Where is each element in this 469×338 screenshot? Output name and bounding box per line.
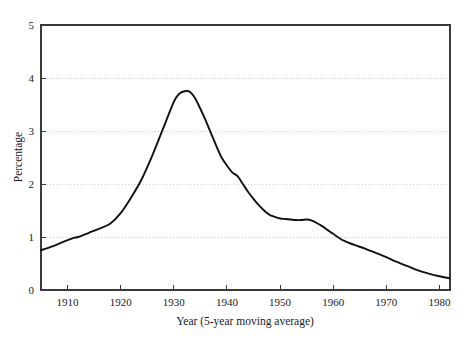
x-axis-title: Year (5-year moving average) bbox=[176, 315, 314, 328]
y-axis-tick-labels-group: 012345 bbox=[29, 19, 35, 296]
y-axis-tick-label: 0 bbox=[29, 284, 35, 296]
chart-figure: 012345 19101920193019401950196019701980 … bbox=[0, 0, 469, 338]
x-axis-tick-labels-group: 19101920193019401950196019701980 bbox=[57, 296, 451, 308]
x-axis-tick-label: 1910 bbox=[57, 296, 80, 308]
x-axis-tick-label: 1920 bbox=[110, 296, 133, 308]
x-axis-tick-label: 1940 bbox=[216, 296, 239, 308]
y-axis-tick-label: 4 bbox=[29, 72, 35, 84]
y-axis-tick-label: 5 bbox=[29, 19, 35, 31]
y-axis-tick-label: 3 bbox=[29, 125, 35, 137]
x-axis-tick-label: 1980 bbox=[428, 296, 451, 308]
y-axis-tick-label: 2 bbox=[29, 178, 35, 190]
plot-background bbox=[41, 25, 450, 290]
y-axis-tick-label: 1 bbox=[29, 231, 35, 243]
line-chart: 012345 19101920193019401950196019701980 … bbox=[0, 0, 469, 338]
x-axis-tick-label: 1930 bbox=[163, 296, 186, 308]
x-axis-tick-label: 1970 bbox=[375, 296, 398, 308]
x-axis-tick-label: 1960 bbox=[322, 296, 345, 308]
y-axis-title: Percentage bbox=[12, 132, 25, 182]
x-axis-tick-label: 1950 bbox=[269, 296, 292, 308]
